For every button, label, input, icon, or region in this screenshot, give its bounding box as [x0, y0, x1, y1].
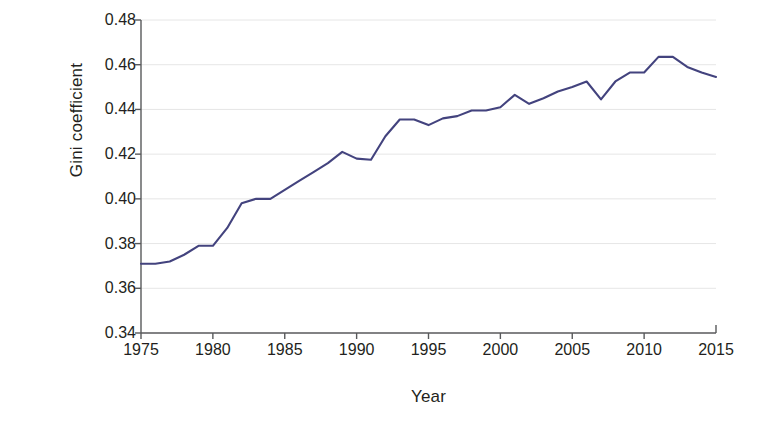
- data-series-line: [141, 57, 716, 264]
- gini-coefficient-line-chart: Gini coefficient Year 0.340.360.380.400.…: [0, 0, 768, 438]
- plot-area: [0, 0, 768, 438]
- axis-tick-marks: [135, 20, 716, 339]
- horizontal-gridlines: [141, 20, 716, 333]
- axis-lines: [141, 20, 716, 333]
